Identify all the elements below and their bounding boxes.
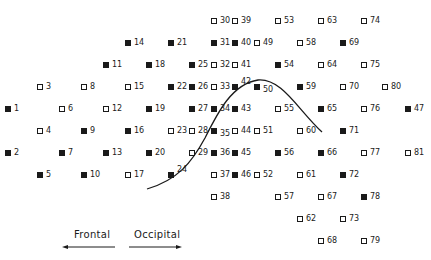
right-arrow-icon xyxy=(129,245,182,249)
frontal-label: Frontal xyxy=(74,229,110,240)
left-arrow-icon xyxy=(62,245,115,249)
occipital-label: Occipital xyxy=(134,229,180,240)
boundary-curve xyxy=(0,0,431,260)
electrode-grid-diagram: 1234567891011121314151617181920212223242… xyxy=(0,0,431,260)
